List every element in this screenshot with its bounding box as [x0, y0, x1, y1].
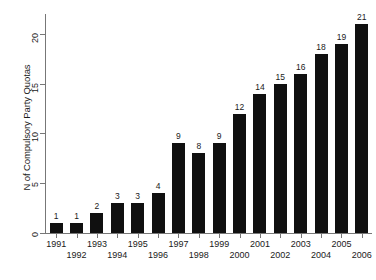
bar-chart-figure: N of Compulsory Party Quotas 05101520 11… [0, 0, 376, 280]
bar-value-label: 12 [229, 102, 250, 112]
bar-group[interactable]: 8 [192, 14, 205, 233]
bar-value-label: 9 [209, 131, 230, 141]
bar-group[interactable]: 2 [90, 14, 103, 233]
y-tick-label: 5 [30, 182, 40, 204]
x-tick-mark [362, 234, 363, 238]
bar-value-label: 18 [311, 42, 332, 52]
bar[interactable] [50, 223, 63, 233]
x-tick-label: 2006 [345, 250, 376, 260]
x-axis-ticks: 1991199219931994199519961997199819992000… [46, 234, 372, 264]
bar-group[interactable]: 16 [294, 14, 307, 233]
x-tick-label: 2000 [223, 250, 257, 260]
bar-value-label: 15 [270, 72, 291, 82]
x-tick-label: 2005 [324, 239, 358, 249]
x-tick-mark [117, 234, 118, 238]
bar-value-label: 2 [86, 201, 107, 211]
x-tick-label: 2001 [243, 239, 277, 249]
x-tick-label: 2002 [263, 250, 297, 260]
bar-group[interactable]: 1 [70, 14, 83, 233]
x-tick-label: 1998 [182, 250, 216, 260]
bar[interactable] [315, 54, 328, 233]
bar-group[interactable]: 4 [152, 14, 165, 233]
bar[interactable] [90, 213, 103, 233]
plot-area: 11233498912141516181921 [46, 14, 372, 233]
bar[interactable] [111, 203, 124, 233]
x-tick-mark [178, 234, 179, 238]
bar-group[interactable]: 1 [50, 14, 63, 233]
x-tick-mark [219, 234, 220, 238]
bar[interactable] [131, 203, 144, 233]
x-tick-mark [341, 234, 342, 238]
bar[interactable] [233, 114, 246, 233]
x-tick-mark [260, 234, 261, 238]
bar-group[interactable]: 9 [172, 14, 185, 233]
bar[interactable] [172, 143, 185, 233]
bar-value-label: 4 [148, 181, 169, 191]
x-tick-mark [199, 234, 200, 238]
bar[interactable] [355, 24, 368, 233]
x-tick-label: 1996 [141, 250, 175, 260]
bar[interactable] [152, 193, 165, 233]
x-tick-label: 1993 [80, 239, 114, 249]
x-tick-label: 1999 [202, 239, 236, 249]
x-tick-mark [321, 234, 322, 238]
bar[interactable] [274, 84, 287, 233]
bar-group[interactable]: 9 [213, 14, 226, 233]
bar-value-label: 16 [290, 62, 311, 72]
bar-group[interactable]: 12 [233, 14, 246, 233]
bar-value-label: 14 [249, 82, 270, 92]
x-tick-label: 1991 [39, 239, 73, 249]
x-tick-mark [56, 234, 57, 238]
bar-group[interactable]: 3 [131, 14, 144, 233]
bar[interactable] [192, 153, 205, 233]
x-tick-mark [77, 234, 78, 238]
x-tick-label: 1994 [100, 250, 134, 260]
bar-group[interactable]: 3 [111, 14, 124, 233]
y-tick-label: 10 [30, 132, 40, 154]
bar[interactable] [253, 94, 266, 233]
x-tick-mark [158, 234, 159, 238]
x-tick-label: 1992 [60, 250, 94, 260]
x-tick-label: 1997 [161, 239, 195, 249]
x-tick-mark [138, 234, 139, 238]
bar-value-label: 9 [168, 131, 189, 141]
y-tick-label: 15 [30, 83, 40, 105]
x-tick-label: 2004 [304, 250, 338, 260]
bar-group[interactable]: 15 [274, 14, 287, 233]
x-tick-mark [240, 234, 241, 238]
bar[interactable] [294, 74, 307, 233]
bar-value-label: 21 [351, 12, 372, 22]
bar-value-label: 19 [331, 32, 352, 42]
bar[interactable] [70, 223, 83, 233]
x-tick-mark [97, 234, 98, 238]
bar-value-label: 3 [107, 191, 128, 201]
x-tick-label: 2003 [284, 239, 318, 249]
bar-value-label: 1 [66, 211, 87, 221]
x-tick-label: 1995 [121, 239, 155, 249]
y-tick-label: 20 [30, 33, 40, 55]
bar-group[interactable]: 19 [335, 14, 348, 233]
bar-value-label: 1 [46, 211, 67, 221]
bar[interactable] [213, 143, 226, 233]
bar-group[interactable]: 14 [253, 14, 266, 233]
bar-group[interactable]: 18 [315, 14, 328, 233]
bar-value-label: 8 [188, 141, 209, 151]
bar[interactable] [335, 44, 348, 233]
bar-value-label: 3 [127, 191, 148, 201]
bar-group[interactable]: 21 [355, 14, 368, 233]
x-tick-mark [280, 234, 281, 238]
x-tick-mark [301, 234, 302, 238]
